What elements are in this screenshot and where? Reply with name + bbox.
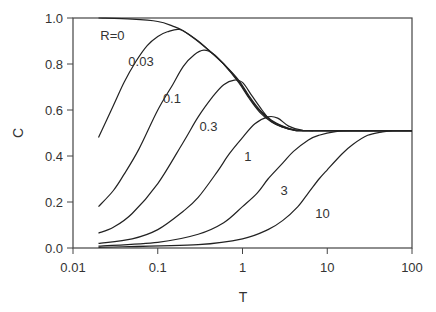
x-tick-label: 0.1 <box>149 260 167 275</box>
curve-label: 1 <box>244 149 251 164</box>
y-axis: 0.00.20.40.60.81.0 <box>45 11 73 256</box>
x-tick-label: 10 <box>320 260 334 275</box>
chart: 0.010.1110100 0.00.20.40.60.81.0 R=00.03… <box>0 0 436 312</box>
y-tick-label: 0.8 <box>45 57 63 72</box>
curve-label: 0.1 <box>163 91 181 106</box>
curve-r-3 <box>99 131 413 247</box>
curve-label: 10 <box>315 206 329 221</box>
x-tick-label: 0.01 <box>60 260 85 275</box>
curve-r-0-03 <box>99 29 413 137</box>
plot-frame <box>73 18 412 248</box>
x-axis-label: T <box>239 289 248 305</box>
curve-label: 0.3 <box>199 119 217 134</box>
x-tick-label: 100 <box>401 260 423 275</box>
curve-labels: R=00.030.10.31310 <box>100 28 329 221</box>
curve-r-0-1 <box>99 50 413 206</box>
curve-r-10 <box>99 131 413 248</box>
curve-r-0-3 <box>99 80 413 233</box>
y-tick-label: 0.0 <box>45 241 63 256</box>
plot-border <box>73 18 412 248</box>
y-tick-label: 0.6 <box>45 103 63 118</box>
y-tick-label: 0.2 <box>45 195 63 210</box>
x-axis: 0.010.1110100 <box>60 248 423 275</box>
curve-label: 3 <box>280 183 287 198</box>
y-tick-label: 1.0 <box>45 11 63 26</box>
curves <box>99 18 413 247</box>
curve-r-0 <box>99 18 413 131</box>
curve-label: 0.03 <box>128 54 153 69</box>
x-tick-label: 1 <box>239 260 246 275</box>
y-tick-label: 0.4 <box>45 149 63 164</box>
y-axis-label: C <box>10 128 26 138</box>
curve-label: R=0 <box>100 28 124 43</box>
